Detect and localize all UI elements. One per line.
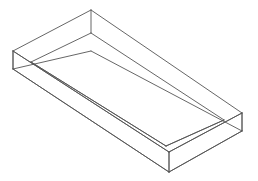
wireframe-box-figure (0, 0, 258, 181)
canvas-background (0, 0, 258, 181)
drawing-canvas (0, 0, 258, 181)
